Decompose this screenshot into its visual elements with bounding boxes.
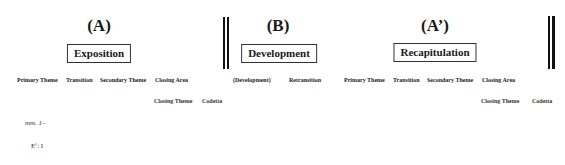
expo-codetta: Codetta [202,98,222,104]
key-roman-numeral: : I [37,142,43,150]
expo-closing-theme: Closing Theme [154,98,192,104]
recapitulation-box: Recapitulation [393,43,476,62]
final-barline-left [548,16,550,69]
final-barline-right [552,16,555,69]
recap-closing-area: Closing Area [482,77,515,83]
key-annotation: E♭: I [31,141,43,150]
expo-primary-theme: Primary Theme [17,77,58,83]
measure-annotation: mm. 1– [25,119,46,127]
development-box: Development [241,44,317,63]
dev-retransition: Retransition [289,77,321,83]
expo-transition: Transition [66,77,93,83]
dev-development: (Development) [233,77,271,83]
section-b-letter: (B) [267,16,290,36]
section-a-letter: (A) [87,16,111,36]
recap-codetta: Codetta [532,98,552,104]
exposition-box: Exposition [67,44,131,63]
recap-transition: Transition [393,77,420,83]
expo-closing-area: Closing Area [155,77,188,83]
expo-secondary-theme: Secondary Theme [100,77,146,83]
double-barline-1-right [227,17,229,69]
recap-closing-theme: Closing Theme [481,98,519,104]
double-barline-1-left [223,17,225,69]
recap-primary-theme: Primary Theme [344,77,385,83]
recap-secondary-theme: Secondary Theme [427,77,473,83]
section-a-prime-letter: (A’) [421,16,449,36]
